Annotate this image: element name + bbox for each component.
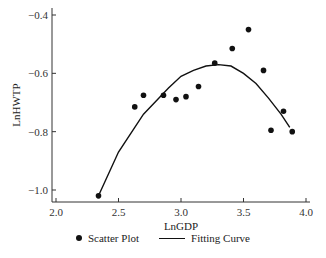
x-tick-label: 2.0 — [49, 206, 63, 218]
scatter-point — [229, 46, 235, 52]
scatter-marker-icon — [76, 235, 82, 241]
scatter-point — [246, 27, 252, 33]
chart-canvas: −0.4−0.6−0.8−1.02.02.53.03.54.0LnGDPLnHW… — [0, 0, 326, 232]
scatter-point — [132, 104, 138, 110]
y-axis-label: LnHWTP — [10, 83, 22, 126]
y-tick-label: −1.0 — [28, 184, 48, 196]
scatter-points — [96, 27, 295, 199]
scatter-point — [281, 108, 287, 114]
y-tick-label: −0.8 — [28, 126, 48, 138]
fitting-curve — [99, 65, 290, 196]
legend-item-curve: Fitting Curve — [159, 232, 250, 244]
scatter-point — [196, 84, 202, 90]
scatter-point — [212, 60, 218, 66]
scatter-point — [141, 92, 147, 98]
y-tick-label: −0.4 — [28, 9, 48, 21]
scatter-point — [183, 94, 189, 100]
x-tick-label: 3.0 — [174, 206, 188, 218]
scatter-point — [96, 193, 102, 199]
scatter-point — [261, 68, 267, 74]
x-axis-label: LnGDP — [164, 220, 198, 232]
x-tick-label: 2.5 — [112, 206, 126, 218]
legend-curve-label: Fitting Curve — [191, 232, 250, 244]
y-tick-label: −0.6 — [28, 67, 48, 79]
x-tick-label: 4.0 — [299, 206, 313, 218]
scatter-point — [268, 127, 274, 133]
scatter-point — [173, 97, 179, 103]
x-tick-label: 3.5 — [237, 206, 251, 218]
legend: Scatter Plot Fitting Curve — [0, 232, 326, 244]
scatter-point — [289, 129, 295, 135]
legend-scatter-label: Scatter Plot — [88, 232, 139, 244]
line-marker-icon — [159, 238, 185, 239]
scatter-point — [161, 92, 167, 98]
axes: −0.4−0.6−0.8−1.02.02.53.03.54.0LnGDPLnHW… — [10, 8, 313, 232]
legend-item-scatter: Scatter Plot — [76, 232, 139, 244]
